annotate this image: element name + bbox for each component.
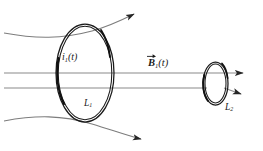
vector-arrow-icon [147, 53, 156, 58]
loop-L2-subscript: 2 [230, 106, 233, 112]
loop-L1-subscript: 1 [89, 102, 92, 108]
magnetic-field-label-B1: B1(t) [148, 58, 168, 69]
straight-field-lines [4, 73, 243, 94]
figure-canvas [0, 0, 263, 151]
bfield-argument: (t) [158, 57, 168, 68]
pickup-loop-L2 [203, 62, 228, 105]
current-label-i1: i1(t) [62, 52, 77, 63]
mutual-inductance-figure: i1(t) B1(t) L1 L2 [0, 0, 263, 151]
loop-label-L2: L2 [225, 103, 233, 113]
loop-L1-thick-shading [57, 58, 64, 104]
bfield-vector-symbol: B [148, 58, 155, 69]
current-argument: (t) [68, 51, 77, 62]
curved-field-lines [4, 14, 141, 139]
bfield-symbol: B [148, 57, 155, 68]
loop-L2-inner-edge [205, 64, 226, 103]
field-line-curved-top [4, 14, 134, 37]
field-line-curved-bottom [4, 117, 141, 139]
loop-label-L1: L1 [84, 99, 92, 109]
